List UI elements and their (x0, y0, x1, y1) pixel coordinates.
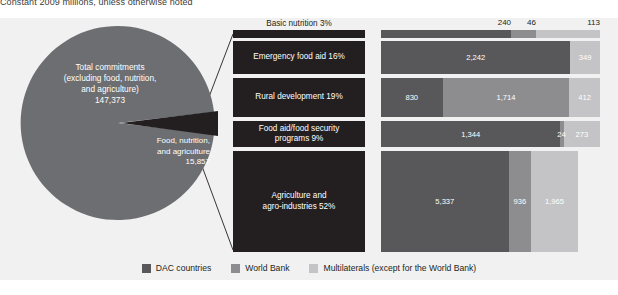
chart-subtitle: Constant 2009 millions, unless otherwise… (0, 0, 193, 7)
legend-swatch-icon (309, 264, 318, 273)
bar-value-multilaterals: 349 (579, 53, 592, 62)
legend-item-multilaterals[interactable]: Multilaterals (except for the World Bank… (309, 263, 476, 273)
bar-segment-multilaterals: 412 (569, 78, 600, 117)
bar-value-dac: 2,242 (466, 53, 485, 62)
category-box-rural-development[interactable]: Rural development 19% (233, 78, 365, 117)
bar-value-world-bank: 24 (557, 130, 565, 139)
chart-legend: DAC countries World Bank Multilaterals (… (0, 258, 618, 278)
category-box-agriculture[interactable]: Agriculture and agro-industries 52% (233, 151, 365, 252)
bar-value-dac: 240 (498, 18, 511, 27)
bar-value-world-bank: 936 (514, 197, 527, 206)
bar-value-world-bank: 46 (527, 18, 536, 27)
bar-row-food-aid-security[interactable]: 1,344 24 273 (381, 121, 600, 147)
bar-value-dac: 830 (405, 93, 418, 102)
bar-value-dac: 5,337 (435, 197, 454, 206)
legend-swatch-icon (231, 264, 240, 273)
category-column: Basic nutrition 3% Emergency food aid 16… (233, 20, 365, 252)
category-label-basic-nutrition: Basic nutrition 3% (233, 19, 365, 29)
legend-label: Multilaterals (except for the World Bank… (323, 263, 476, 273)
legend-item-dac-countries[interactable]: DAC countries (142, 263, 211, 273)
legend-label: DAC countries (156, 263, 211, 273)
bar-value-multilaterals: 412 (578, 93, 591, 102)
legend-item-world-bank[interactable]: World Bank (231, 263, 289, 273)
bar-value-multilaterals: 273 (575, 130, 588, 139)
bar-segment-dac: 1,344 (381, 121, 560, 147)
pie-food-label: Food, nutrition, and agriculture 15,857 (118, 136, 210, 168)
bar-value-multilaterals: 1,965 (545, 197, 564, 206)
category-box-food-aid-security[interactable]: Food aid/food security programs 9% (233, 121, 365, 147)
bar-segment-multilaterals: 349 (570, 41, 600, 74)
bar-row-basic-nutrition[interactable]: 240 46 113 (381, 30, 600, 38)
pie-total-label: Total commitments (excluding food, nutri… (40, 62, 180, 106)
category-box-basic-nutrition[interactable] (233, 30, 365, 38)
legend-swatch-icon (142, 264, 151, 273)
bar-row-emergency-food-aid[interactable]: 2,242 349 (381, 41, 600, 74)
bar-segment-world-bank: 46 (511, 30, 536, 38)
category-box-emergency-food-aid[interactable]: Emergency food aid 16% (233, 41, 365, 74)
bar-segment-dac: 240 (381, 30, 511, 38)
bar-value-world-bank: 1,714 (496, 93, 515, 102)
bar-segment-multilaterals: 273 (564, 121, 600, 147)
bar-segment-multilaterals: 113 (536, 30, 600, 38)
bar-row-rural-development[interactable]: 830 1,714 412 (381, 78, 600, 117)
bar-segment-multilaterals: 1,965 (531, 151, 578, 252)
bar-segment-dac: 5,337 (381, 151, 509, 252)
bar-segment-world-bank: 1,714 (443, 78, 570, 117)
bar-segment-dac: 2,242 (381, 41, 570, 74)
legend-label: World Bank (245, 263, 289, 273)
bar-value-multilaterals: 113 (587, 18, 600, 27)
stacked-bars-column: 240 46 113 2,242 349 830 1,714 412 1,344 (381, 20, 600, 252)
bar-row-agriculture[interactable]: 5,337 936 1,965 (381, 151, 578, 252)
pie-chart: Total commitments (excluding food, nutri… (18, 10, 218, 230)
bar-segment-world-bank: 936 (509, 151, 531, 252)
bar-segment-dac: 830 (381, 78, 443, 117)
bar-value-dac: 1,344 (461, 130, 480, 139)
